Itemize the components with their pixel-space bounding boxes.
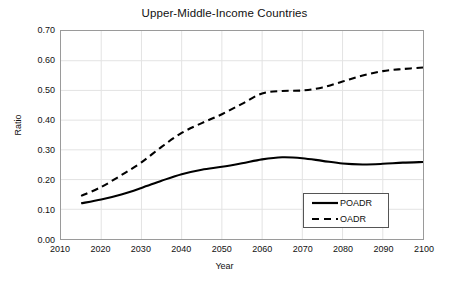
legend-swatch-dashed-icon xyxy=(311,213,339,225)
y-tick-label: 0.50 xyxy=(5,86,55,95)
x-axis-tick-labels: 2010202020302040205020602070208020902100 xyxy=(0,245,449,259)
legend-item-poadr[interactable]: POADR xyxy=(304,195,388,211)
legend-label-poadr: POADR xyxy=(340,199,372,208)
chart-legend: POADR OADR xyxy=(303,193,389,228)
y-tick-label: 0.20 xyxy=(5,176,55,185)
chart-title: Upper-Middle-Income Countries xyxy=(0,7,449,19)
y-tick-label: 0.60 xyxy=(5,56,55,65)
x-tick-label: 2100 xyxy=(394,245,449,254)
chart-figure: Upper-Middle-Income Countries 0.000.100.… xyxy=(0,0,449,283)
legend-swatch-solid-icon xyxy=(311,197,339,209)
y-tick-label: 0.70 xyxy=(5,26,55,35)
series-line-oadr xyxy=(81,68,423,196)
legend-item-oadr[interactable]: OADR xyxy=(304,211,388,227)
y-tick-label: 0.00 xyxy=(5,236,55,245)
y-axis-label: Ratio xyxy=(13,95,23,155)
x-axis-label: Year xyxy=(0,261,449,271)
y-axis-tick-labels: 0.000.100.200.300.400.500.600.70 xyxy=(0,0,55,283)
y-tick-label: 0.10 xyxy=(5,206,55,215)
legend-label-oadr: OADR xyxy=(340,215,366,224)
